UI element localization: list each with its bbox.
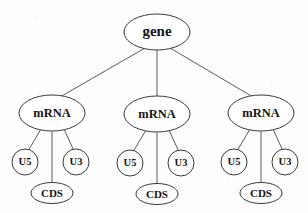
node-cds-left[interactable]: CDS (31, 183, 73, 204)
edge-mrna-middle-to-u3 (169, 130, 179, 152)
node-cds-right[interactable]: CDS (240, 183, 282, 204)
edge-mrna-left-to-u5 (28, 129, 41, 151)
node-mrna-right[interactable]: mRNA (228, 95, 294, 131)
edge-gene-to-mrna-left (60, 48, 145, 97)
node-cds-left-label: CDS (41, 187, 63, 199)
gene-structure-diagram: gene mRNA U5 CDS U3 mRNA U5 (0, 0, 308, 213)
node-u5-left[interactable]: U5 (12, 149, 38, 175)
node-mrna-left[interactable]: mRNA (19, 95, 85, 131)
node-u5-middle-label: U5 (124, 157, 137, 168)
node-u3-left-label: U3 (70, 156, 83, 167)
edge-mrna-middle-to-u5 (133, 130, 146, 152)
node-u5-left-label: U5 (19, 156, 32, 167)
edge-mrna-right-to-u5 (237, 129, 250, 151)
node-u3-middle[interactable]: U3 (168, 150, 194, 176)
edge-mrna-left-to-u3 (64, 129, 74, 151)
node-u3-right-label: U3 (279, 156, 292, 167)
diagram-canvas: gene mRNA U5 CDS U3 mRNA U5 (0, 0, 308, 213)
node-u5-middle[interactable]: U5 (117, 150, 143, 176)
node-cds-right-label: CDS (250, 187, 272, 199)
node-u5-right-label: U5 (228, 156, 241, 167)
node-mrna-middle-label: mRNA (138, 107, 176, 121)
node-gene[interactable]: gene (124, 14, 190, 50)
node-mrna-left-label: mRNA (33, 106, 71, 120)
node-u3-middle-label: U3 (175, 157, 188, 168)
node-u3-right[interactable]: U3 (272, 149, 298, 175)
node-mrna-middle[interactable]: mRNA (124, 96, 190, 132)
node-u3-left[interactable]: U3 (63, 149, 89, 175)
node-cds-middle-label: CDS (146, 188, 168, 200)
edge-gene-to-mrna-right (170, 48, 253, 97)
node-u5-right[interactable]: U5 (221, 149, 247, 175)
edge-group-gene-to-mrna (60, 48, 253, 97)
node-gene-label: gene (142, 23, 172, 39)
edge-mrna-right-to-u3 (273, 129, 283, 151)
node-mrna-right-label: mRNA (242, 106, 280, 120)
node-cds-middle[interactable]: CDS (136, 184, 178, 205)
